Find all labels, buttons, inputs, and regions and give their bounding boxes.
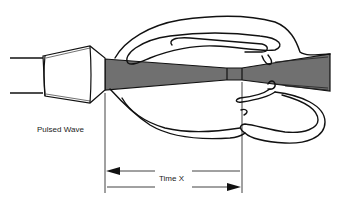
arrow-left-icon bbox=[106, 167, 120, 175]
diagram-canvas bbox=[0, 0, 339, 203]
ultrasound-beam bbox=[105, 54, 330, 91]
arrow-right-icon bbox=[227, 183, 241, 191]
pulsed-wave-label: Pulsed Wave bbox=[37, 126, 84, 134]
time-x-label: Time X bbox=[159, 175, 184, 183]
transducer-probe bbox=[10, 46, 105, 103]
